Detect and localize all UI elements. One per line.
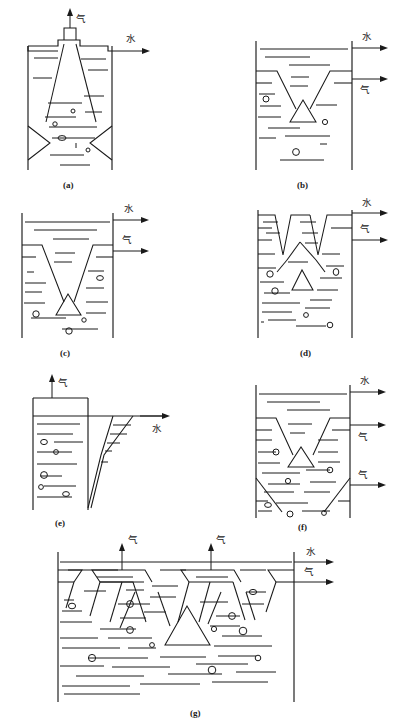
water-hatching-c [24, 222, 110, 329]
label-gas-d: 气 [360, 223, 370, 234]
water-hatching-e [37, 424, 83, 497]
outlet-water-b: 水 [352, 31, 388, 51]
caption-e: (e) [55, 518, 65, 528]
chimney-cone-a [46, 28, 96, 122]
caption-g: (g) [190, 708, 201, 718]
label-gas-right-g: 气 [216, 534, 226, 545]
triangle-deflector-d [292, 270, 313, 290]
bubbles-a [53, 109, 90, 152]
outlet-water-e: 水 [140, 413, 170, 434]
diagonal-baffles-g [120, 592, 255, 628]
triangle-deflector-b [290, 100, 316, 122]
caption-c: (c) [60, 348, 70, 358]
outlet-gas-side-g: 气 [294, 566, 334, 585]
label-gas-b: 气 [360, 84, 370, 95]
outlet-gas-c: 气 [113, 234, 149, 254]
gas-hood-left-g [90, 570, 152, 622]
label-gas-e: 气 [58, 377, 68, 388]
label-gas-c: 气 [122, 234, 132, 245]
label-water-f: 水 [360, 375, 370, 386]
panel-g: 气 气 水 气 (g) [58, 534, 334, 718]
outlet-gas-b: 气 [352, 76, 388, 95]
bubbles-e [39, 439, 70, 496]
v-funnel-c [22, 245, 113, 302]
panel-b: 水 气 (b) [256, 31, 388, 190]
outlet-water-c: 水 [113, 203, 149, 223]
label-water-a: 水 [126, 33, 136, 44]
outlet-gas-lower-f: 气 [350, 469, 386, 488]
label-water-d: 水 [362, 197, 372, 208]
outlet-gas-left-g: 气 [119, 534, 138, 570]
water-hatching-d [258, 222, 344, 326]
label-gas-left-g: 气 [128, 534, 138, 545]
caption-b: (b) [297, 180, 308, 190]
bubbles-d [261, 269, 339, 328]
figure-container: 气 水 (a) [0, 0, 398, 726]
caption-f: (f) [298, 522, 307, 532]
outlet-water-d: 水 [352, 197, 388, 216]
panel-f: 水 气 气 (f) [256, 375, 386, 532]
label-gas-lower-f: 气 [358, 469, 368, 480]
outlet-gas-upper-f: 气 [350, 422, 386, 442]
triangle-deflector-g [165, 606, 210, 645]
label-gas-a: 气 [76, 13, 86, 24]
outlet-gas-e: 气 [49, 374, 68, 398]
bubbles-g [68, 589, 260, 673]
bubbles-c [33, 276, 104, 335]
water-hatching-g [60, 562, 292, 694]
bubbles-f [265, 449, 333, 517]
outlet-gas-a: 气 [67, 8, 86, 28]
outlet-water-a: 水 [112, 33, 150, 54]
vessel-walls-e [33, 398, 88, 510]
label-water-c: 水 [124, 203, 134, 214]
label-water-b: 水 [362, 31, 372, 42]
label-water-e: 水 [152, 423, 162, 434]
panel-d: 水 气 (d) [258, 197, 388, 358]
water-hatching-a [33, 58, 108, 165]
panel-e: 气 水 (e) [33, 374, 170, 528]
triangle-deflector-c [56, 294, 81, 315]
twin-v-funnels-d [258, 215, 352, 255]
triangle-deflector-f [288, 447, 314, 467]
water-hatching-b [258, 49, 348, 160]
launder-hatching-e [101, 425, 131, 462]
vessel-walls-g [58, 552, 294, 702]
outlet-gas-d: 气 [352, 223, 388, 243]
label-gas-side-g: 气 [304, 566, 314, 577]
caption-a: (a) [63, 180, 74, 190]
water-hatching-f [256, 394, 347, 511]
panel-c: 水 气 (c) [22, 203, 149, 358]
label-gas-upper-f: 气 [358, 431, 368, 442]
panel-a: 气 水 (a) [28, 8, 150, 190]
outlet-water-g: 水 [294, 546, 334, 565]
outlet-gas-right-g: 气 [208, 534, 226, 570]
caption-d: (d) [300, 348, 311, 358]
label-water-g: 水 [306, 546, 316, 557]
outlet-water-f: 水 [350, 375, 386, 395]
